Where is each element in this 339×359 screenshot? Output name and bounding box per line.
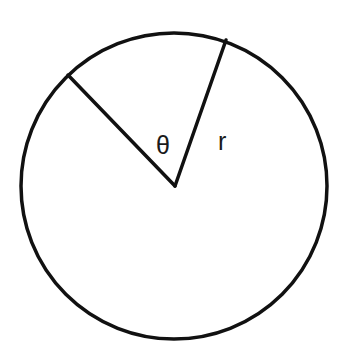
angle-label: θ <box>156 131 170 159</box>
circle-diagram: θ r <box>0 0 339 359</box>
radius-label: r <box>218 127 226 155</box>
radius-line-right <box>175 40 226 186</box>
